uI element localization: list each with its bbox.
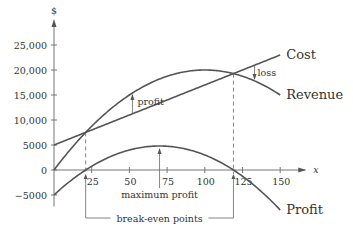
curve-label-revenue: Revenue [286,87,343,102]
curve-cost [54,55,280,145]
break-even-label: break-even points [117,213,203,224]
curve-label-profit: Profit [286,202,323,217]
x-tick-label: 75 [162,176,174,187]
x-tick-label: 150 [272,176,290,187]
x-tick-label: 100 [197,176,215,187]
y-tick-label: 10,000 [14,115,47,126]
y-tick-label: 5000 [23,140,47,151]
x-tick-label: 25 [87,176,99,187]
curve-label-cost: Cost [286,47,316,62]
y-tick-label: 20,000 [14,65,47,76]
loss-annotation: loss [258,67,277,78]
arrow-down-icon [253,74,257,80]
x-axis-arrow-icon [298,168,306,173]
y-tick-label: 15,000 [14,90,47,101]
profit-annotation: profit [137,96,164,107]
arrow-up-icon [130,94,134,100]
y-tick-label: 0 [41,165,47,176]
curve-revenue [54,70,280,170]
axes: $x25,00020,00015,00010,00050000−50002550… [14,5,320,207]
y-axis-label: $ [51,5,57,16]
arrow-up-icon [158,148,162,154]
y-tick-label: −5000 [15,190,47,201]
x-tick-label: 50 [124,176,136,187]
x-axis-label: x [313,164,319,175]
y-axis-arrow-icon [52,19,57,27]
profit-cost-revenue-chart: $x25,00020,00015,00010,00050000−50002550… [0,0,353,236]
maximum-profit-label: maximum profit [121,189,198,200]
y-tick-label: 25,000 [14,40,47,51]
